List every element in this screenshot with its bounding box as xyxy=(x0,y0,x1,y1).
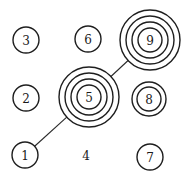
node-label: 2 xyxy=(22,92,30,106)
node-label: 9 xyxy=(146,34,154,48)
connector-1-5 xyxy=(35,117,67,146)
node-label: 7 xyxy=(146,151,154,165)
node-9: 9 xyxy=(120,10,180,70)
node-4: 4 xyxy=(82,149,90,163)
node-label: 5 xyxy=(85,91,93,105)
node-label: 6 xyxy=(84,33,92,47)
node-label: 3 xyxy=(22,34,30,48)
node-1: 1 xyxy=(12,142,38,168)
node-label: 4 xyxy=(82,149,90,163)
connector-5-9 xyxy=(111,60,128,76)
connector-layer xyxy=(35,60,128,146)
node-7: 7 xyxy=(137,144,163,170)
node-5: 5 xyxy=(59,67,119,127)
node-label: 8 xyxy=(145,93,153,107)
node-3: 3 xyxy=(13,27,39,53)
node-6: 6 xyxy=(75,26,101,52)
numbered-node-diagram: 123456789 xyxy=(0,0,192,183)
node-8: 8 xyxy=(132,82,166,116)
node-layer: 123456789 xyxy=(12,10,180,170)
node-label: 1 xyxy=(21,149,29,163)
node-2: 2 xyxy=(13,85,39,111)
